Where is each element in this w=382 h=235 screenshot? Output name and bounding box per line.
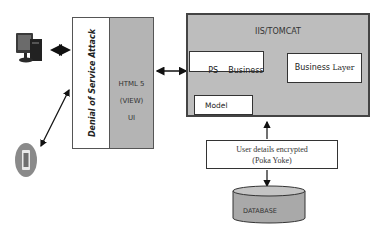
- dos-label: Denial of Service Attack: [87, 29, 96, 137]
- encryption-box: User details encrypted (Poka Yoke): [206, 140, 338, 169]
- ps-business-box: PS Business: [189, 51, 264, 72]
- ps-prefix: PS: [208, 66, 218, 75]
- model-label: Model: [205, 101, 228, 110]
- ps-business-label: Business: [228, 66, 263, 75]
- view-line-1: HTML 5: [110, 80, 153, 88]
- database-label: DATABASE: [243, 207, 277, 215]
- mobile-phone-icon: [15, 143, 37, 177]
- business-layer-word1: Business: [295, 63, 330, 72]
- view-line-3: UI: [110, 114, 153, 122]
- encryption-line-1: User details encrypted: [207, 145, 337, 154]
- business-layer-box: Business Layer: [287, 53, 362, 83]
- denial-of-service-panel: Denial of Service Attack: [72, 17, 110, 149]
- html5-view-panel: HTML 5 (VIEW) UI: [109, 17, 154, 149]
- business-layer-word2: Layer: [333, 63, 355, 72]
- server-title: IIS/TOMCAT: [188, 27, 368, 36]
- encryption-line-2: (Poka Yoke): [207, 156, 337, 165]
- model-box: Model: [194, 95, 253, 115]
- database-cylinder-icon: [233, 186, 305, 223]
- desktop-computer-icon: [16, 33, 42, 63]
- mobile-to-dos-arrow: [41, 90, 69, 146]
- view-line-2: (VIEW): [110, 97, 153, 105]
